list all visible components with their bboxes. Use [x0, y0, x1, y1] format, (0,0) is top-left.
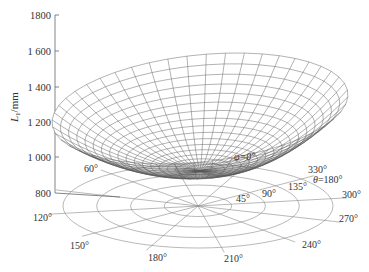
phi-zero-label: φ=0°: [234, 151, 255, 162]
z-tick-label-800: 800: [35, 188, 51, 199]
polar-spoke: [198, 206, 224, 252]
angle-label-120: 120°: [33, 212, 52, 223]
z-tick-label-1200: 1 200: [27, 117, 51, 128]
angle-label-300: 300°: [342, 189, 361, 200]
angle-label-60: 60°: [84, 163, 98, 174]
angle-label-240: 240°: [302, 239, 321, 250]
polar-spoke: [198, 198, 347, 206]
surface-chart: 1800 1 600 1 400 1 200 1 000 800 L1/mm φ…: [0, 0, 369, 272]
z-tick-label-1000: 1 000: [27, 152, 51, 163]
z-tick-label-1600: 1 600: [27, 46, 51, 57]
z-axis-title: L1/mm: [8, 92, 22, 123]
z-title-unit: /mm: [8, 92, 20, 113]
angle-label-180: 180°: [148, 252, 167, 263]
angle-label-210: 210°: [224, 253, 243, 264]
surface-backdrop: [52, 53, 348, 164]
ring-label-45: 45°: [236, 193, 250, 204]
angle-label-150: 150°: [70, 240, 89, 251]
theta-max-label: θ=180°: [313, 174, 343, 185]
z-tick-label-1800: 1800: [30, 10, 51, 21]
angle-label-270: 270°: [339, 213, 358, 224]
polar-spoke: [49, 206, 198, 214]
z-title-main: L: [8, 116, 20, 123]
z-tick-label-1400: 1 400: [27, 82, 51, 93]
ring-label-135: 135°: [288, 181, 307, 192]
svg-text:L1/mm: L1/mm: [8, 92, 22, 123]
surface-mesh: [52, 53, 348, 179]
ring-label-90: 90°: [262, 188, 276, 199]
